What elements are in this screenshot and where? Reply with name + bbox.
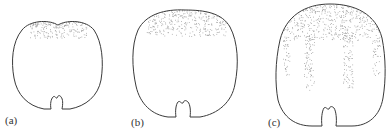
stipple-dot [286,71,287,72]
stipple-dot [311,34,312,35]
stipple-dot [370,12,371,13]
stipple-dot [160,22,161,23]
stipple-dot [50,23,51,24]
stipple-dot [34,24,35,25]
stipple-dot [50,37,51,38]
stipple-dot [226,23,227,24]
stipple-dot [165,24,166,25]
stipple-dot [299,14,300,15]
stipple-dot [44,31,45,32]
panel-label-c: (c) [268,116,281,129]
stipple-dot [310,50,311,51]
stipple-dot [184,26,185,27]
stipple-dot [312,12,313,13]
stipple-dot [210,29,211,30]
stipple-dot [376,40,377,41]
stipple-dot [196,12,197,13]
stipple-dot [219,10,220,11]
stipple-dot [154,27,155,28]
stipple-dot [374,29,375,30]
stipple-dot [208,10,209,11]
stipple-dot [183,17,184,18]
stipple-dot [57,21,58,22]
stipple-dot [310,64,311,65]
stipple-dot [299,18,300,19]
stipple-dot [378,26,379,27]
stipple-dot [331,16,332,17]
stipple-dot [307,43,308,44]
stipple-dot [200,29,201,30]
stipple-dot [310,71,311,72]
stipple-dot [284,65,285,66]
stipple-dot [374,24,375,25]
stipple-dot [334,5,335,6]
stipple-dot [311,68,312,69]
stipple-dot [311,28,312,29]
stipple-dot [360,5,361,6]
stipple-dot [334,12,335,13]
stipple-dot [72,29,73,30]
stipple-dot [343,75,344,76]
stipple-dot [347,41,348,42]
stipple-dot [370,26,371,27]
stipple-dot [345,56,346,57]
stipple-dot [358,7,359,8]
stipple-dot [345,45,346,46]
stipple-dot [364,21,365,22]
stipple-dot [181,32,182,33]
stipple-dot [85,37,86,38]
stipple-dot [86,29,87,30]
stipple-dot [156,12,157,13]
stipple-dot [329,32,330,33]
stipple-dot [317,11,318,12]
stipple-dot [337,36,338,37]
stipple-dot [151,12,152,13]
stipple-dot [367,8,368,9]
stipple-dot [294,39,295,40]
stipple-dot [334,39,335,40]
stipple-dot [61,21,62,22]
stipple-dot [308,24,309,25]
stipple-dot [195,24,196,25]
stipple-dot [350,56,351,57]
stipple-dot [350,70,351,71]
stipple-dot [197,27,198,28]
stipple-dot [150,33,151,34]
stipple-dot [152,26,153,27]
stipple-dot [206,17,207,18]
stipple-dot [356,27,357,28]
stipple-dot [37,25,38,26]
stipple-dot [319,38,320,39]
stipple-dot [297,25,298,26]
stipple-dot [61,25,62,26]
stipple-dot [301,26,302,27]
stipple-dot [220,11,221,12]
stipple-dot [362,25,363,26]
stipple-dot [360,19,361,20]
stipple-dot [155,12,156,13]
stipple-dot [178,21,179,22]
stipple-dot [179,26,180,27]
stipple-dot [56,34,57,35]
stipple-dot [352,58,353,59]
stipple-dot [181,28,182,29]
stipple-dot [288,46,289,47]
stipple-dot [311,39,312,40]
stipple-dot [78,38,79,39]
stipple-dot [339,34,340,35]
stipple-dot [161,25,162,26]
stipple-dot [348,53,349,54]
stipple-dot [350,40,351,41]
stipple-dot [378,73,379,74]
stipple-dot [378,20,379,21]
stipple-dot [37,24,38,25]
stipple-dot [71,31,72,32]
stipple-dot [377,46,378,47]
stipple-dot [48,36,49,37]
stipple-dot [209,33,210,34]
stipple-dot [344,62,345,63]
stipple-dot [205,28,206,29]
stipple-dot [199,18,200,19]
stipple-dot [213,17,214,18]
stipple-dot [288,18,289,19]
